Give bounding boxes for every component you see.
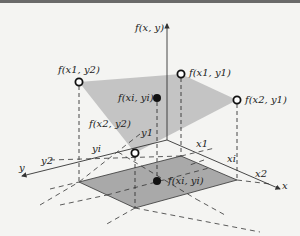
label-f-x1-y1: f(x1, y1) [188, 67, 231, 78]
z-axis-label: f(x, y) [134, 22, 164, 33]
upper-surface-plane [79, 74, 237, 153]
x-axis-label: x [282, 180, 288, 191]
point-f-xi-yi-upper [153, 94, 161, 102]
label-f-x2-y2: f(x2, y2) [88, 118, 131, 129]
point-f-x2-y2 [131, 149, 138, 156]
label-f-x2-y1: f(x2, y1) [244, 94, 287, 105]
label-f-xi-yi-upper: f(xi, yi) [117, 92, 154, 103]
point-f-x1-y1 [177, 70, 184, 77]
bilinear-interpolation-diagram: f(x, y) f(x1, y2) f(x1, y1) f(x2, y1) f(… [0, 0, 300, 236]
tick-y2: y2 [40, 155, 53, 166]
label-f-xi-yi-lower: f(xi, yi) [167, 175, 204, 186]
tick-x1: x1 [196, 138, 208, 149]
tick-yi: yi [91, 143, 101, 154]
y-axis-label: y [18, 162, 25, 173]
label-f-x1-y2: f(x1, y2) [57, 64, 100, 75]
tick-y1: y1 [140, 127, 153, 138]
tick-x2: x2 [255, 168, 267, 179]
tick-xi: xi [227, 153, 236, 164]
point-f-xi-yi-lower [153, 177, 161, 185]
point-f-x1-y2 [75, 78, 82, 85]
point-f-x2-y1 [233, 96, 240, 103]
